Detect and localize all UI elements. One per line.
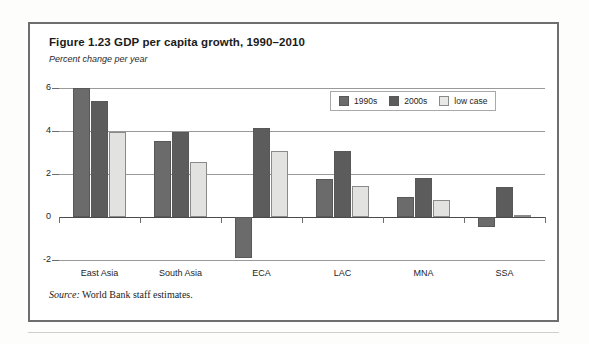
y-axis-tick-label: -2 <box>35 254 51 264</box>
x-axis-tick <box>302 217 303 223</box>
x-axis-tick <box>59 217 60 223</box>
figure-source: Source: World Bank staff estimates. <box>49 289 193 300</box>
y-axis-tick-label: 2 <box>35 168 51 178</box>
y-axis-tick <box>52 260 59 261</box>
bar <box>478 217 495 227</box>
gridline <box>59 131 545 132</box>
x-axis-tick <box>545 217 546 223</box>
bar <box>352 186 369 217</box>
bar <box>397 197 414 217</box>
x-axis-category-label: ECA <box>221 268 302 278</box>
figure-frame: Figure 1.23 GDP per capita growth, 1990–… <box>28 22 559 322</box>
bar <box>154 141 171 217</box>
x-axis-tick <box>221 217 222 223</box>
source-text: World Bank staff estimates. <box>80 289 193 300</box>
page-divider <box>28 332 559 333</box>
gridline <box>59 88 545 89</box>
x-axis-category-label: LAC <box>302 268 383 278</box>
y-axis-tick-label: 6 <box>35 82 51 92</box>
x-axis-category-label: South Asia <box>140 268 221 278</box>
x-axis-category-label: East Asia <box>59 268 140 278</box>
bar <box>316 179 333 217</box>
bar <box>235 217 252 258</box>
x-axis-category-label: MNA <box>383 268 464 278</box>
x-axis-tick <box>140 217 141 223</box>
source-prefix: Source: <box>49 289 80 300</box>
bar <box>253 128 270 217</box>
bar <box>514 215 531 217</box>
x-axis-tick <box>383 217 384 223</box>
bar <box>415 178 432 217</box>
bar <box>190 162 207 217</box>
y-axis-tick-label: 0 <box>35 211 51 221</box>
bar <box>172 132 189 217</box>
legend-swatch-icon <box>389 96 399 106</box>
y-axis-tick <box>52 131 59 132</box>
legend-label: 1990s <box>354 96 377 106</box>
x-axis-category-label: SSA <box>464 268 545 278</box>
bar <box>496 187 513 217</box>
legend-label: 2000s <box>404 96 427 106</box>
y-axis-tick-label: 4 <box>35 125 51 135</box>
legend-item-low-case[interactable]: low case <box>439 96 487 106</box>
bar <box>271 151 288 217</box>
bar <box>334 151 351 217</box>
y-axis-tick <box>52 88 59 89</box>
bar <box>433 200 450 217</box>
x-axis-tick <box>464 217 465 223</box>
chart-legend: 1990s 2000s low case <box>330 91 496 111</box>
y-axis-tick <box>52 174 59 175</box>
legend-label: low case <box>454 96 487 106</box>
legend-swatch-icon <box>439 96 449 106</box>
legend-item-1990s[interactable]: 1990s <box>339 96 377 106</box>
bar <box>109 132 126 217</box>
chart-plot-area: East AsiaSouth AsiaECALACMNASSA <box>59 88 545 260</box>
figure-title: Figure 1.23 GDP per capita growth, 1990–… <box>49 36 305 48</box>
figure-page: Figure 1.23 GDP per capita growth, 1990–… <box>0 0 589 344</box>
gridline <box>59 174 545 175</box>
gridline <box>59 260 545 261</box>
legend-item-2000s[interactable]: 2000s <box>389 96 427 106</box>
legend-swatch-icon <box>339 96 349 106</box>
figure-subtitle: Percent change per year <box>49 54 148 64</box>
bar <box>73 88 90 217</box>
bar <box>91 101 108 217</box>
